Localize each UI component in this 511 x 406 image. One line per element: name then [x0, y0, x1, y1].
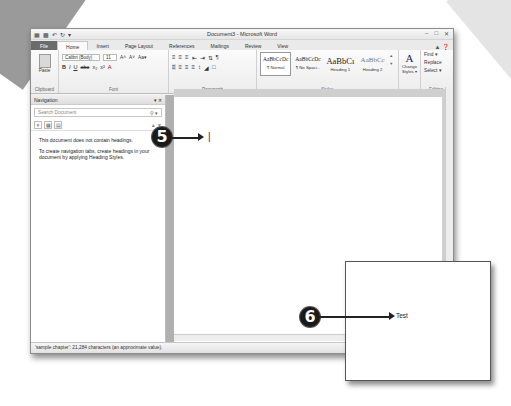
navigation-header: Navigation ▾ ✕	[31, 95, 165, 105]
inset-connector	[347, 260, 348, 380]
customize-qat-icon[interactable]: ▾	[68, 31, 71, 38]
decrease-indent-icon[interactable]: ⇤	[192, 54, 197, 61]
style-no-spacing[interactable]: AaBbCcDc ¶ No Spaci...	[292, 52, 323, 76]
clipboard-group: Paste Clipboard	[31, 50, 59, 93]
tab-page-layout[interactable]: Page Layout	[117, 41, 161, 50]
tab-insert[interactable]: Insert	[88, 41, 117, 50]
search-icon[interactable]: ⚲ ▾	[150, 110, 158, 116]
redo-icon[interactable]: ↻	[60, 31, 65, 38]
font-label: Font	[59, 87, 168, 92]
status-text: 'sample chapter': 21,284 characters (an …	[35, 345, 162, 350]
style-heading-1[interactable]: AaBbCı Heading 1	[325, 52, 356, 76]
find-button[interactable]: Find ▾	[424, 52, 448, 57]
ribbon: Paste Clipboard Calibri (Body) 11 A˄ A˅ …	[31, 50, 453, 94]
justify-icon[interactable]: ≡	[192, 64, 196, 70]
numbering-icon[interactable]: ≡	[179, 54, 183, 60]
browse-headings-tab[interactable]: ≡	[34, 121, 42, 129]
callout-5-arrow	[172, 137, 200, 139]
shrink-font-button[interactable]: A˅	[129, 55, 135, 60]
paste-button[interactable]: Paste	[34, 68, 55, 73]
change-styles-group: A Change Styles ▾	[399, 50, 421, 93]
subscript-button[interactable]: x₂	[92, 64, 97, 70]
arrowhead-icon	[389, 312, 395, 320]
navigation-tabs: ≡ ▦ ▤ ▲ ▼	[31, 120, 165, 131]
align-left-icon[interactable]: ≡	[172, 64, 176, 70]
tab-references[interactable]: References	[161, 41, 203, 50]
navigation-close-icon[interactable]: ▾ ✕	[154, 97, 162, 103]
decorative-corner	[446, 0, 511, 86]
change-styles-button[interactable]: Change Styles ▾	[402, 64, 417, 74]
sort-icon[interactable]: ⇅	[208, 54, 213, 61]
navigation-title: Navigation	[34, 97, 58, 103]
close-button[interactable]: ✕	[444, 30, 449, 37]
font-group: Calibri (Body) 11 A˄ A˅ Aa▾ B I U abc x₂…	[59, 50, 169, 93]
undo-icon[interactable]: ↶	[52, 31, 57, 38]
change-case-button[interactable]: Aa▾	[138, 55, 147, 60]
select-button[interactable]: Select ▾	[424, 68, 448, 73]
quick-access-toolbar: ▦ ▩ ↶ ↻ ▾	[31, 31, 71, 38]
font-name-select[interactable]: Calibri (Body)	[62, 54, 100, 61]
style-normal[interactable]: AaBbCcDc ¶ Normal	[260, 52, 291, 76]
styles-group: AaBbCcDc ¶ Normal AaBbCcDc ¶ No Spaci...…	[257, 50, 399, 93]
increase-indent-icon[interactable]: ⇥	[200, 54, 205, 61]
tab-home[interactable]: Home	[57, 41, 88, 50]
navigation-pane: Navigation ▾ ✕ Search Document ⚲ ▾ ≡ ▦ ▤…	[31, 95, 166, 342]
font-color-icon[interactable]: A	[108, 64, 112, 70]
navigation-message: This document does not contain headings.…	[31, 131, 165, 171]
callout-5: 5	[152, 127, 172, 147]
callout-6: 6	[300, 307, 320, 327]
window-title: Document3 - Microsoft Word	[31, 31, 453, 37]
text-cursor: |	[208, 131, 211, 142]
tab-view[interactable]: View	[269, 41, 296, 50]
underline-button[interactable]: U	[74, 64, 78, 70]
browse-results-tab[interactable]: ▤	[54, 121, 62, 129]
typed-text: Test	[396, 312, 408, 319]
replace-button[interactable]: Replace	[424, 60, 448, 65]
tab-review[interactable]: Review	[237, 41, 269, 50]
browse-pages-tab[interactable]: ▦	[44, 121, 52, 129]
callout-6-arrow	[320, 316, 390, 318]
title-bar: ▦ ▩ ↶ ↻ ▾ Document3 - Microsoft Word – □…	[31, 29, 453, 40]
bold-button[interactable]: B	[62, 64, 66, 70]
superscript-button[interactable]: x²	[100, 64, 105, 70]
save-icon[interactable]: ▩	[43, 31, 49, 38]
shading-icon[interactable]: ◢	[204, 64, 209, 71]
italic-button[interactable]: I	[69, 64, 71, 70]
bullets-icon[interactable]: ≡	[172, 54, 176, 60]
style-heading-2[interactable]: AaBbCc Heading 2	[357, 52, 388, 76]
paragraph-group: ≡ ≡ ≡ ⇤ ⇥ ⇅ ¶ ≡ ≡ ≡ ≡ ↕ ◢ □ Paragra	[169, 50, 257, 93]
tab-file[interactable]: File	[31, 41, 57, 50]
tab-mailings[interactable]: Mailings	[203, 41, 237, 50]
instructional-stage: ▦ ▩ ↶ ↻ ▾ Document3 - Microsoft Word – □…	[0, 0, 511, 406]
align-center-icon[interactable]: ≡	[179, 64, 183, 70]
change-styles-icon[interactable]: A	[402, 52, 417, 64]
search-document-input[interactable]: Search Document ⚲ ▾	[34, 108, 162, 117]
zoom-inset: Test	[345, 261, 491, 381]
ribbon-tabs: File Home Insert Page Layout References …	[31, 40, 453, 50]
paste-icon[interactable]	[39, 54, 51, 68]
pilcrow-icon[interactable]: ¶	[216, 54, 219, 60]
font-size-select[interactable]: 11	[103, 54, 117, 61]
word-icon[interactable]: ▦	[34, 31, 40, 38]
multilevel-list-icon[interactable]: ≡	[185, 54, 189, 60]
borders-icon[interactable]: □	[212, 64, 216, 70]
grow-font-button[interactable]: A˄	[120, 55, 126, 60]
align-right-icon[interactable]: ≡	[185, 64, 189, 70]
line-spacing-icon[interactable]: ↕	[198, 64, 201, 70]
help-icon[interactable]: ▲ ❓	[434, 43, 453, 50]
minimize-button[interactable]: –	[425, 30, 428, 37]
restore-button[interactable]: □	[434, 30, 438, 37]
arrowhead-icon	[198, 133, 204, 141]
clipboard-label: Clipboard	[31, 87, 58, 92]
strikethrough-button[interactable]: abc	[81, 64, 90, 70]
